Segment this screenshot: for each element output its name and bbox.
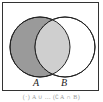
set-b-label: B [61,77,67,88]
set-a-label: A [33,77,39,88]
venn-diagram [0,0,103,102]
caption: (·) A ∪ ... (∁A ∩ B) [0,93,103,100]
